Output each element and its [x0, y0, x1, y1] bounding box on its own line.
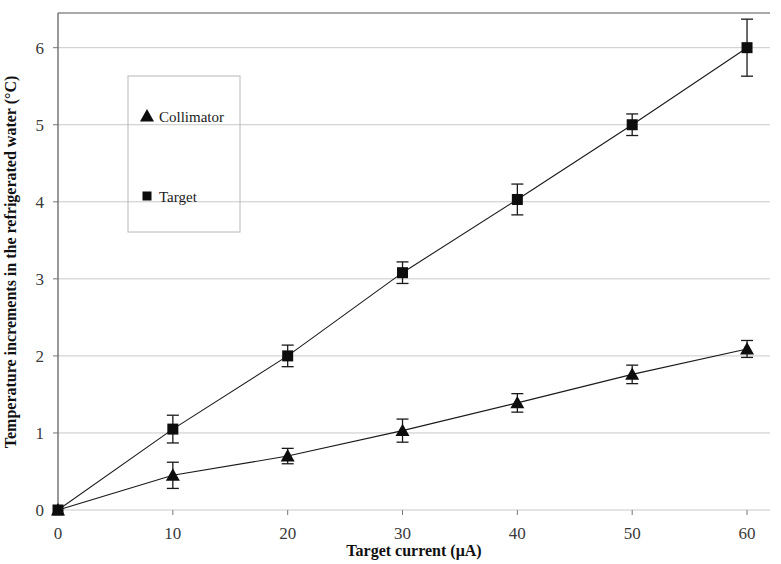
y-tick-label-1: 1	[36, 424, 45, 443]
legend-marker-target	[143, 192, 152, 201]
y-tick-label-5: 5	[36, 116, 45, 135]
legend-label-target: Target	[159, 189, 198, 205]
y-tick-label-6: 6	[36, 39, 45, 58]
x-tick-label-10: 10	[164, 524, 181, 543]
datapoint-target-40	[512, 194, 523, 205]
y-tick-label-4: 4	[36, 193, 45, 212]
legend-marker-collimator	[140, 109, 154, 121]
x-tick-label-40: 40	[509, 524, 526, 543]
y-tick-label-3: 3	[36, 270, 45, 289]
y-tick-label-2: 2	[36, 347, 45, 366]
datapoint-target-50	[627, 119, 638, 130]
y-axis-title: Temperature increments in the refrigerat…	[2, 76, 20, 449]
chart-canvas: 01234560102030405060Target current (μA)T…	[0, 0, 781, 564]
datapoint-collimator-60	[740, 342, 754, 354]
x-tick-label-20: 20	[279, 524, 296, 543]
x-axis-title: Target current (μA)	[346, 542, 481, 560]
datapoint-target-30	[397, 267, 408, 278]
x-tick-label-50: 50	[624, 524, 641, 543]
legend-label-collimator: Collimator	[159, 109, 224, 125]
x-tick-label-30: 30	[394, 524, 411, 543]
datapoint-target-60	[742, 42, 753, 53]
x-tick-label-60: 60	[739, 524, 756, 543]
x-tick-label-0: 0	[54, 524, 63, 543]
y-tick-label-0: 0	[36, 501, 45, 520]
datapoint-target-20	[282, 350, 293, 361]
datapoint-target-10	[167, 424, 178, 435]
legend-box	[128, 76, 240, 232]
chart-figure: 01234560102030405060Target current (μA)T…	[0, 0, 781, 564]
